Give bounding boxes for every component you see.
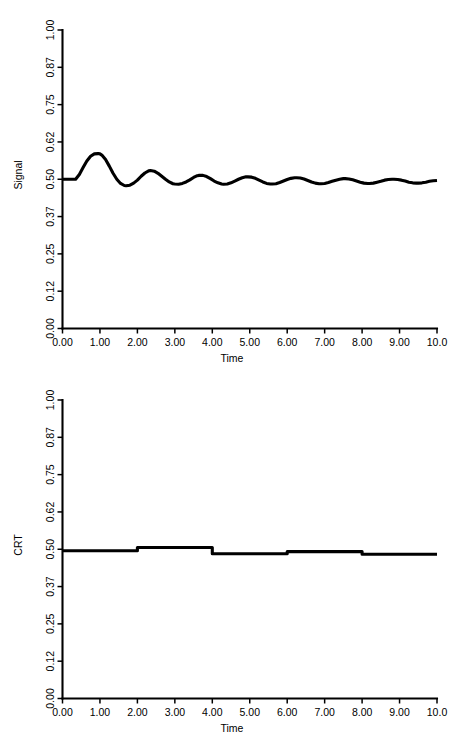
signal-x-tick-labels: 0.001.002.003.004.005.006.007.008.009.00… — [52, 336, 447, 348]
x-tick-label: 1.00 — [90, 336, 111, 348]
signal-y-axis-title: Signal — [12, 160, 24, 189]
y-tick-label: 0.12 — [44, 281, 56, 302]
x-tick-label: 0.00 — [52, 336, 73, 348]
y-tick-label: 0.87 — [44, 427, 56, 448]
x-tick-label: 5.00 — [240, 706, 261, 718]
y-tick-label: 0.75 — [44, 464, 56, 485]
y-tick-label: 0.12 — [44, 651, 56, 672]
x-tick-label: 7.00 — [314, 706, 335, 718]
x-tick-label: 4.00 — [202, 706, 223, 718]
x-tick-label: 4.00 — [202, 336, 223, 348]
crt-chart-svg: 0.000.120.250.370.500.620.750.871.00 0.0… — [0, 370, 454, 740]
signal-chart-svg: 0.000.120.250.370.500.620.750.871.00 0.0… — [0, 0, 454, 370]
x-tick-label: 8.00 — [352, 706, 373, 718]
y-tick-label: 0.87 — [44, 57, 56, 78]
x-tick-label: 7.00 — [314, 336, 335, 348]
chart-panel-signal: 0.000.120.250.370.500.620.750.871.00 0.0… — [0, 0, 454, 370]
x-tick-label: 2.00 — [127, 336, 148, 348]
y-tick-label: 0.75 — [44, 94, 56, 115]
y-tick-label: 0.25 — [44, 613, 56, 634]
x-tick-label: 6.00 — [277, 336, 298, 348]
x-tick-label: 2.00 — [127, 706, 148, 718]
y-tick-label: 0.62 — [44, 502, 56, 523]
figure-root: 0.000.120.250.370.500.620.750.871.00 0.0… — [0, 0, 454, 740]
y-tick-label: 0.62 — [44, 132, 56, 153]
x-tick-label: 8.00 — [352, 336, 373, 348]
chart-panel-crt: 0.000.120.250.370.500.620.750.871.00 0.0… — [0, 370, 454, 740]
x-tick-label: 10.0 — [427, 706, 448, 718]
x-tick-label: 1.00 — [90, 706, 111, 718]
x-tick-label: 10.0 — [427, 336, 448, 348]
y-tick-label: 0.37 — [44, 576, 56, 597]
y-tick-label: 1.00 — [44, 390, 56, 411]
crt-x-tick-labels: 0.001.002.003.004.005.006.007.008.009.00… — [52, 706, 447, 718]
y-tick-label: 0.50 — [44, 169, 56, 190]
crt-y-axis-title: CRT — [12, 534, 24, 556]
crt-data-line — [63, 547, 438, 554]
y-tick-label: 0.50 — [44, 539, 56, 560]
signal-y-tick-labels: 0.000.120.250.370.500.620.750.871.00 — [44, 20, 56, 339]
signal-data-line — [63, 154, 438, 186]
y-tick-label: 0.37 — [44, 206, 56, 227]
y-tick-label: 1.00 — [44, 20, 56, 41]
x-tick-label: 3.00 — [165, 336, 186, 348]
x-tick-label: 9.00 — [389, 336, 410, 348]
x-tick-label: 5.00 — [240, 336, 261, 348]
x-tick-label: 0.00 — [52, 706, 73, 718]
x-tick-label: 3.00 — [165, 706, 186, 718]
y-tick-label: 0.25 — [44, 243, 56, 264]
x-tick-label: 6.00 — [277, 706, 298, 718]
signal-x-axis-title: Time — [221, 352, 244, 364]
crt-x-axis-title: Time — [221, 722, 244, 734]
crt-y-tick-labels: 0.000.120.250.370.500.620.750.871.00 — [44, 390, 56, 709]
x-tick-label: 9.00 — [389, 706, 410, 718]
